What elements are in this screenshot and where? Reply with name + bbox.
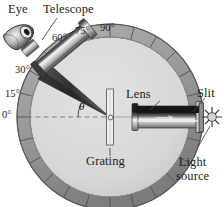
label-light-source-line1: Light [176,155,209,169]
angle-tick-0: 0° [2,110,12,121]
angle-tick-15: 15° [5,89,20,100]
angle-tick-30: 30° [15,65,30,76]
label-theta: θ [79,101,85,112]
label-slit: Slit [197,87,215,100]
label-grating: Grating [86,155,125,168]
angle-tick-90: 90° [100,23,115,34]
angle-tick-60: 60° [52,33,67,44]
label-lens: Lens [126,88,151,101]
grating-plate [107,89,114,145]
label-eye: Eye [8,3,28,16]
collimator-lens-tube [132,102,203,133]
angle-tick-75: 75° [75,26,90,37]
label-telescope: Telescope [43,3,94,16]
spectrometer-diagram: Eye Telescope 90° 75° 60° 30° 15° 0° θ L… [0,0,224,207]
label-light-source-line2: source [176,169,209,183]
light-source-icon [202,107,221,126]
label-light-source: Light source [176,155,209,183]
